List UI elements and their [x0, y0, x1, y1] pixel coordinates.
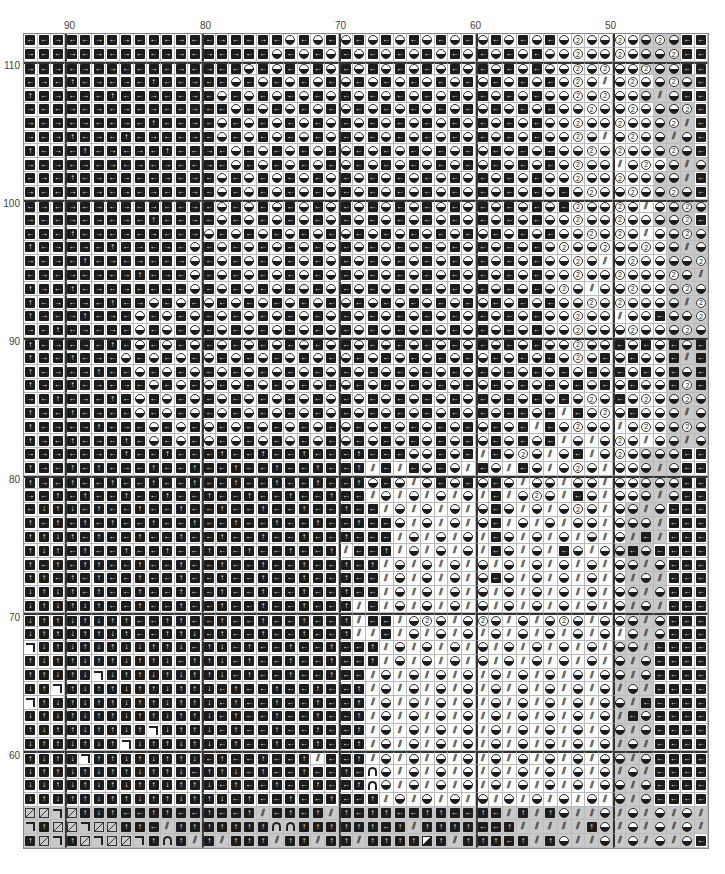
- grid-cell: ⫽: [353, 613, 367, 627]
- slash-marks-icon: ⫽: [518, 822, 528, 832]
- left-arrow-icon: ←: [682, 698, 692, 708]
- left-arrow-icon: ←: [272, 754, 282, 764]
- grid-cell: ←: [517, 144, 531, 158]
- left-arrow-icon: ←: [532, 311, 542, 321]
- grid-cell: [585, 269, 599, 283]
- grid-cell: [572, 476, 586, 490]
- half-circle-icon: [518, 698, 528, 708]
- up-arrow-icon: ↑: [341, 532, 351, 542]
- grid-cell: ←: [270, 489, 284, 503]
- half-circle-icon: [217, 91, 227, 101]
- slash-marks-icon: ⫽: [600, 587, 610, 597]
- left-arrow-icon: ←: [244, 436, 254, 446]
- grid-cell: [585, 117, 599, 131]
- circled-two-icon: 2: [587, 394, 597, 404]
- half-circle-icon: [628, 587, 638, 597]
- half-circle-icon: [450, 794, 460, 804]
- half-circle-icon: [299, 187, 309, 197]
- left-arrow-icon: ←: [217, 229, 227, 239]
- left-arrow-icon: ←: [299, 808, 309, 818]
- left-arrow-icon: ←: [272, 560, 282, 570]
- left-arrow-icon: ←: [285, 256, 295, 266]
- grid-cell: [325, 62, 339, 76]
- grid-cell: ←: [380, 420, 394, 434]
- left-arrow-icon: ←: [272, 104, 282, 114]
- grid-cell: ↑: [188, 724, 202, 738]
- left-arrow-icon: ←: [436, 77, 446, 87]
- grid-cell: ←: [229, 89, 243, 103]
- grid-cell: ←: [503, 213, 517, 227]
- half-circle-icon: [559, 573, 569, 583]
- left-arrow-icon: ←: [285, 463, 295, 473]
- left-arrow-icon: ←: [176, 340, 186, 350]
- grid-cell: ↑: [435, 820, 449, 834]
- grid-cell: [489, 393, 503, 407]
- grid-cell: ←: [448, 365, 462, 379]
- grid-cell: ←: [284, 503, 298, 517]
- up-arrow-icon: ↑: [463, 822, 473, 832]
- left-arrow-icon: ←: [381, 77, 391, 87]
- grid-cell: ↑: [65, 669, 79, 683]
- grid-cell: ←: [339, 365, 353, 379]
- grid-cell: ↓: [120, 655, 134, 669]
- half-circle-icon: [478, 642, 488, 652]
- grid-cell: ↓: [202, 696, 216, 710]
- left-arrow-icon: ←: [450, 215, 460, 225]
- grid-cell: [229, 420, 243, 434]
- half-circle-icon: [313, 160, 323, 170]
- grid-cell: ←: [134, 627, 148, 641]
- grid-cell: [517, 269, 531, 283]
- grid-cell: ←: [448, 186, 462, 200]
- grid-cell: [394, 503, 408, 517]
- half-circle-icon: [381, 340, 391, 350]
- corner-icon: [122, 740, 131, 749]
- left-arrow-icon: ←: [176, 367, 186, 377]
- down-arrow-icon: ↓: [53, 794, 63, 804]
- grid-cell: [558, 131, 572, 145]
- left-arrow-icon: ←: [121, 601, 131, 611]
- grid-cell: [613, 600, 627, 614]
- left-arrow-icon: ←: [135, 478, 145, 488]
- grid-cell: [270, 310, 284, 324]
- half-circle-icon: [532, 794, 542, 804]
- left-arrow-icon: ←: [450, 173, 460, 183]
- half-circle-icon: [381, 118, 391, 128]
- circled-two-icon: 2: [615, 49, 625, 59]
- grid-cell: [626, 117, 640, 131]
- left-arrow-icon: ←: [313, 270, 323, 280]
- grid-cell: ←: [667, 669, 681, 683]
- down-arrow-icon: ↓: [190, 754, 200, 764]
- right-arrow-icon: →: [121, 270, 131, 280]
- slash-marks-icon: ⫽: [682, 436, 692, 446]
- grid-cell: ←: [339, 48, 353, 62]
- left-arrow-icon: ←: [478, 173, 488, 183]
- left-arrow-icon: ←: [107, 132, 117, 142]
- grid-cell: ←: [695, 834, 709, 848]
- grid-cell: ⫽: [448, 765, 462, 779]
- up-arrow-icon: ↑: [217, 767, 227, 777]
- grid-cell: →: [120, 172, 134, 186]
- grid-cell: [394, 641, 408, 655]
- grid-cell: ⫽: [626, 600, 640, 614]
- grid-cell: ←: [311, 586, 325, 600]
- up-arrow-icon: ↑: [190, 684, 200, 694]
- grid-cell: ←: [243, 600, 257, 614]
- up-arrow-icon: ↑: [67, 532, 77, 542]
- grid-cell: [585, 338, 599, 352]
- left-arrow-icon: ←: [258, 670, 268, 680]
- left-arrow-icon: ←: [94, 118, 104, 128]
- circled-two-icon: 2: [478, 616, 488, 626]
- grid-cell: [325, 131, 339, 145]
- grid-cell: 2: [572, 351, 586, 365]
- grid-cell: ⫽: [585, 613, 599, 627]
- grid-cell: ←: [353, 641, 367, 655]
- left-arrow-icon: ←: [190, 601, 200, 611]
- half-circle-icon: [559, 77, 569, 87]
- grid-cell: [353, 131, 367, 145]
- grid-cell: ⫽: [407, 558, 421, 572]
- grid-cell: ⫽: [599, 641, 613, 655]
- grid-cell: ←: [476, 117, 490, 131]
- half-circle-icon: [655, 215, 665, 225]
- up-arrow-icon: ↑: [299, 836, 309, 846]
- grid-cell: ←: [681, 462, 695, 476]
